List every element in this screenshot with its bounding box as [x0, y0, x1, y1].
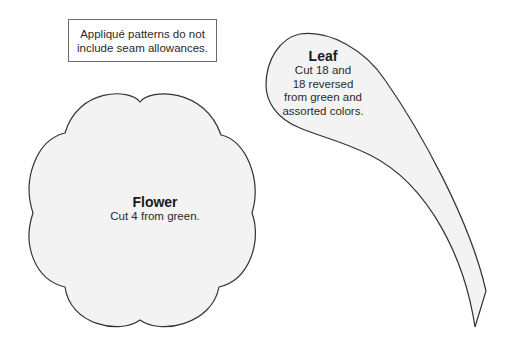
leaf-label: Leaf Cut 18 and 18 reversed from green a…: [268, 48, 378, 118]
leaf-instruction-line-1: Cut 18 and: [268, 64, 378, 78]
leaf-instruction-line-3: from green and: [268, 91, 378, 105]
leaf-instruction-line-2: 18 reversed: [268, 78, 378, 92]
leaf-instruction-line-4: assorted colors.: [268, 105, 378, 119]
leaf-title: Leaf: [268, 48, 378, 64]
flower-label: Flower Cut 4 from green.: [100, 194, 210, 224]
flower-instructions: Cut 4 from green.: [100, 210, 210, 224]
flower-title: Flower: [100, 194, 210, 210]
